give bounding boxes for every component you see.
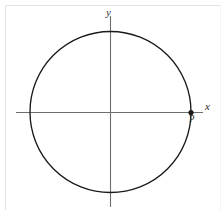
- figure-canvas: y x P: [0, 0, 223, 212]
- y-axis-label: y: [106, 7, 111, 18]
- point-p-label: P: [189, 114, 195, 124]
- x-axis-label: x: [205, 101, 210, 112]
- circle-diagram-svg: [0, 0, 223, 212]
